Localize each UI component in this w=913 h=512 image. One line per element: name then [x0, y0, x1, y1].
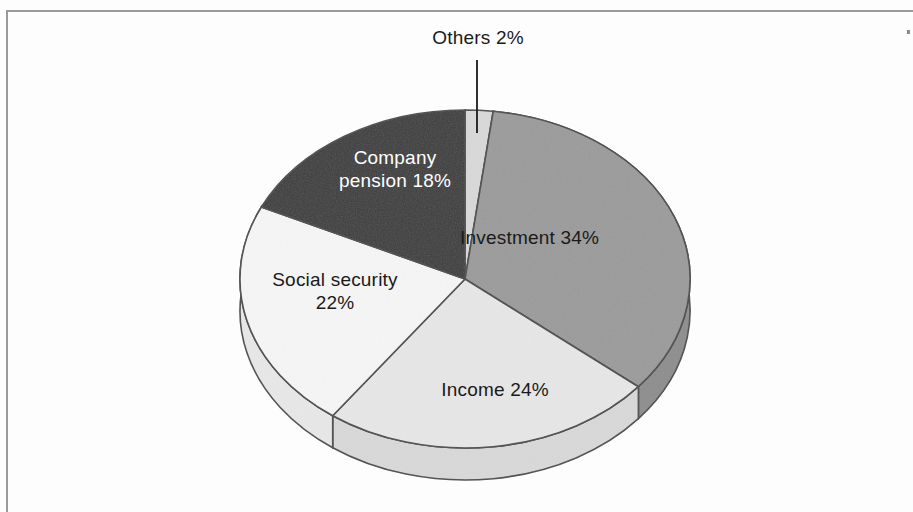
pie-chart-svg — [0, 0, 913, 512]
pie-top-faces — [240, 110, 690, 448]
scanned-page: vet se he ner te are ete — [0, 0, 913, 512]
pie-body — [240, 110, 690, 480]
pie-chart: Others 2% Investment 34% Income 24% Soci… — [0, 0, 913, 512]
